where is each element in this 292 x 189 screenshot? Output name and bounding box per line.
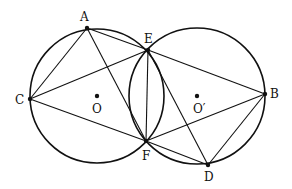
segment-ce — [30, 50, 148, 99]
segment-af — [87, 28, 146, 141]
label-a: A — [79, 10, 89, 24]
point-o — [95, 94, 99, 98]
label-b: B — [270, 87, 279, 101]
label-e: E — [144, 32, 153, 46]
label-c: C — [15, 93, 24, 107]
label-d: D — [204, 170, 214, 184]
point-f — [144, 139, 148, 143]
segment-ef — [146, 50, 148, 141]
label-o: O — [92, 102, 102, 116]
segment-cf — [30, 99, 146, 141]
point-d — [206, 163, 210, 167]
point-b — [263, 92, 267, 96]
point-e — [146, 48, 150, 52]
label-f: F — [142, 149, 150, 163]
point-a — [85, 26, 89, 30]
label-o2: O′ — [193, 102, 206, 116]
point-c — [28, 97, 32, 101]
point-o2 — [195, 94, 199, 98]
segment-eb — [148, 50, 265, 94]
geometry-diagram: AECOO′BFD — [0, 0, 292, 189]
